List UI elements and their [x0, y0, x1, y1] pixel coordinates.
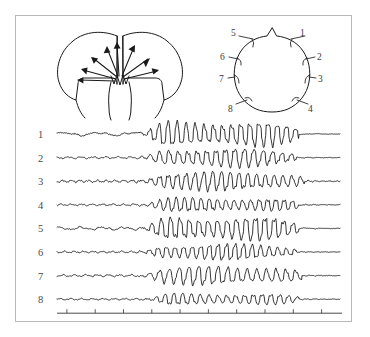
channel-label-5: 5	[38, 223, 43, 234]
electrode-label-1: 1	[300, 28, 305, 38]
eeg-trace-channel-4	[57, 197, 340, 212]
eeg-chart-svg: 12345678	[20, 122, 352, 317]
eeg-traces-group	[57, 120, 340, 305]
electrode-label-2: 2	[317, 52, 322, 62]
eeg-trace-channel-1	[57, 120, 340, 148]
electrode-markers	[234, 39, 310, 101]
channel-label-3: 3	[38, 176, 43, 187]
electrode-label-5: 5	[231, 28, 236, 38]
channel-label-7: 7	[38, 271, 43, 282]
channel-label-6: 6	[38, 247, 43, 258]
electrode-label-4: 4	[308, 104, 313, 114]
channel-label-2: 2	[38, 153, 43, 164]
channel-label-1: 1	[38, 129, 43, 140]
eeg-trace-channel-3	[57, 171, 340, 192]
eeg-trace-channel-7	[57, 266, 340, 286]
brain-diagram-svg	[45, 22, 195, 122]
eeg-trace-panel: 12345678	[20, 122, 352, 317]
electrode-label-6: 6	[220, 52, 225, 62]
eeg-channel-labels: 12345678	[38, 129, 44, 305]
brain-outline	[58, 32, 183, 120]
head-outline	[234, 28, 310, 112]
eeg-trace-channel-8	[57, 293, 340, 305]
eeg-trace-channel-6	[57, 243, 340, 260]
channel-label-8: 8	[38, 294, 43, 305]
electrode-label-8: 8	[228, 104, 233, 114]
electrode-lead-lines	[228, 36, 316, 104]
eeg-trace-channel-5	[57, 217, 340, 241]
spike-generator-zigzag	[111, 75, 129, 85]
head-map-svg: 1 2 3 4 5 6 7 8	[205, 22, 340, 122]
eeg-figure: 1 2 3 4 5 6 7 8 12345678	[0, 0, 370, 337]
electrode-label-3: 3	[318, 74, 323, 84]
eeg-time-axis	[57, 309, 342, 313]
channel-label-4: 4	[38, 200, 44, 211]
electrode-label-7: 7	[219, 74, 224, 84]
coronal-brain-section	[45, 22, 195, 122]
electrode-placement-map: 1 2 3 4 5 6 7 8	[205, 22, 340, 122]
eeg-trace-channel-2	[57, 149, 340, 168]
